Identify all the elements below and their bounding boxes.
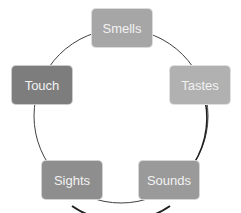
node-label: Sights: [54, 173, 90, 188]
node-smells: Smells: [91, 8, 153, 48]
node-sounds: Sounds: [138, 160, 200, 200]
connector-sights-sounds: [72, 206, 170, 213]
node-sights: Sights: [41, 160, 103, 200]
node-label: Sounds: [147, 173, 191, 188]
node-tastes: Tastes: [169, 65, 231, 105]
node-label: Smells: [102, 21, 141, 36]
node-touch: Touch: [11, 65, 73, 105]
node-label: Touch: [25, 78, 60, 93]
node-label: Tastes: [181, 78, 219, 93]
